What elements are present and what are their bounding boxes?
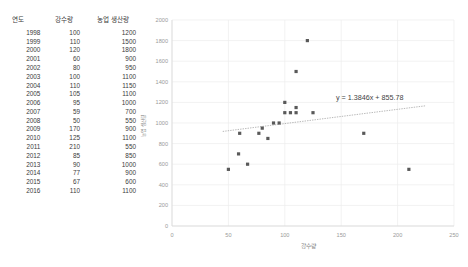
cell-year: 2015	[8, 177, 42, 186]
cell-rainfall: 80	[42, 63, 86, 72]
cell-rainfall: 100	[42, 72, 86, 81]
data-point-2009	[362, 132, 365, 135]
y-tick-label: 600	[159, 161, 168, 167]
data-point-2016	[294, 111, 297, 114]
cell-rainfall: 59	[42, 107, 86, 116]
table-row: 200759700	[8, 107, 140, 116]
data-point-2012	[266, 137, 269, 140]
cell-year: 2006	[8, 98, 42, 107]
cell-year: 1999	[8, 37, 42, 46]
data-point-2011	[407, 168, 410, 171]
cell-rainfall: 110	[42, 186, 86, 195]
cell-rainfall: 110	[42, 37, 86, 46]
cell-rainfall: 210	[42, 142, 86, 151]
cell-year: 1998	[8, 28, 42, 37]
cell-year: 2003	[8, 72, 42, 81]
column-header-rainfall: 강수량	[42, 14, 86, 28]
cell-year: 2010	[8, 133, 42, 142]
table-header: 연도 강수량 농업 생산량	[8, 14, 140, 28]
cell-year: 2001	[8, 54, 42, 63]
cell-year: 2007	[8, 107, 42, 116]
y-tick-label: 2000	[156, 17, 168, 23]
data-point-2001	[238, 132, 241, 135]
cell-production: 1800	[86, 46, 140, 55]
table-row: 19981001200	[8, 28, 140, 37]
x-axis-tick-labels: 050100150200250	[170, 232, 458, 238]
cell-rainfall: 60	[42, 54, 86, 63]
y-tick-label: 1800	[156, 38, 168, 44]
cell-rainfall: 110	[42, 81, 86, 90]
table-row: 201477900	[8, 169, 140, 178]
cell-production: 600	[86, 177, 140, 186]
cell-year: 2005	[8, 89, 42, 98]
y-tick-label: 1200	[156, 99, 168, 105]
data-point-2003	[283, 111, 286, 114]
y-axis-title: 농업 생산량	[140, 114, 146, 136]
cell-production: 550	[86, 142, 140, 151]
scatter-chart-panel: 0200400600800100012001400160018002000 05…	[140, 8, 462, 260]
y-tick-label: 0	[165, 223, 168, 229]
cell-production: 1150	[86, 81, 140, 90]
cell-year: 2012	[8, 151, 42, 160]
cell-rainfall: 50	[42, 116, 86, 125]
cell-production: 850	[86, 151, 140, 160]
table-row: 200160900	[8, 54, 140, 63]
cell-rainfall: 105	[42, 89, 86, 98]
cell-production: 950	[86, 63, 140, 72]
data-point-2015	[246, 163, 249, 166]
x-tick-label: 250	[449, 232, 458, 238]
table-row: 201567600	[8, 177, 140, 186]
cell-production: 700	[86, 107, 140, 116]
trendline	[223, 106, 426, 132]
table-row: 19991101500	[8, 37, 140, 46]
data-point-2008	[227, 168, 230, 171]
x-axis-title: 강수량	[301, 243, 317, 250]
cell-year: 2004	[8, 81, 42, 90]
table-row: 20161101100	[8, 186, 140, 195]
cell-production: 1000	[86, 98, 140, 107]
y-tick-label: 200	[159, 202, 168, 208]
data-point-2004	[294, 106, 297, 109]
cell-production: 1100	[86, 186, 140, 195]
cell-rainfall: 120	[42, 46, 86, 55]
cell-rainfall: 170	[42, 125, 86, 134]
y-axis-tick-labels: 0200400600800100012001400160018002000	[156, 17, 168, 229]
cell-production: 1200	[86, 28, 140, 37]
x-tick-label: 150	[337, 232, 346, 238]
table-row: 2009170900	[8, 125, 140, 134]
cell-rainfall: 85	[42, 151, 86, 160]
data-point-2002	[261, 127, 264, 130]
data-point-2000	[306, 39, 309, 42]
cell-rainfall: 77	[42, 169, 86, 178]
table-row: 2013901000	[8, 160, 140, 169]
table-row: 20031001100	[8, 72, 140, 81]
grid-lines	[172, 20, 454, 226]
table-row: 20001201800	[8, 46, 140, 55]
x-tick-label: 200	[393, 232, 402, 238]
screenshot-root: 연도 강수량 농업 생산량 19981001200199911015002000…	[0, 0, 468, 267]
y-tick-label: 1400	[156, 79, 168, 85]
table-row: 20051051100	[8, 89, 140, 98]
cell-production: 1100	[86, 133, 140, 142]
y-tick-label: 1000	[156, 120, 168, 126]
y-tick-label: 1600	[156, 58, 168, 64]
cell-production: 1100	[86, 72, 140, 81]
table-row: 2011210550	[8, 142, 140, 151]
cell-production: 1000	[86, 160, 140, 169]
cell-production: 550	[86, 116, 140, 125]
data-point-2014	[257, 132, 260, 135]
table-row: 201285850	[8, 151, 140, 160]
table-row: 20101251100	[8, 133, 140, 142]
scatter-plot: 0200400600800100012001400160018002000 05…	[140, 8, 462, 260]
table-row: 20041101150	[8, 81, 140, 90]
table-row: 200850550	[8, 116, 140, 125]
column-header-year: 연도	[8, 14, 42, 28]
x-tick-label: 100	[280, 232, 289, 238]
x-tick-label: 50	[225, 232, 231, 238]
cell-year: 2000	[8, 46, 42, 55]
cell-rainfall: 100	[42, 28, 86, 37]
data-points	[227, 39, 411, 171]
cell-year: 2002	[8, 63, 42, 72]
table-header-row: 연도 강수량 농업 생산량	[8, 14, 140, 28]
data-point-1999	[294, 70, 297, 73]
